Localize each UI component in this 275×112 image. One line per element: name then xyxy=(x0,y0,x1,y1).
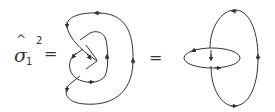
equation-figure: ^ σ 1 2 = = xyxy=(0,0,275,112)
hopf-link-diagram xyxy=(184,10,258,106)
braid-closure-diagram xyxy=(66,13,133,104)
diagram-canvas xyxy=(0,0,275,112)
